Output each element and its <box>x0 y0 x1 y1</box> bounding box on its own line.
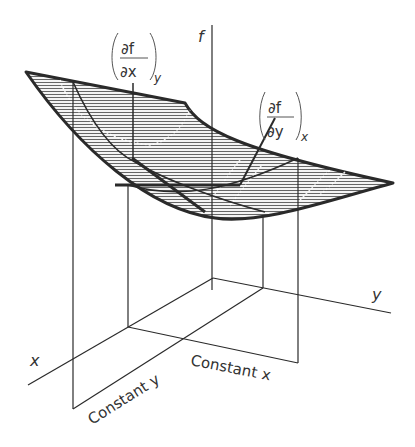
x-axis <box>28 278 213 385</box>
f-axis-label: f <box>198 27 206 46</box>
partial-x-label: ∂f ∂x y <box>112 33 162 85</box>
svg-text:x: x <box>300 130 309 144</box>
svg-text:∂y: ∂y <box>267 123 284 141</box>
constant-y-line <box>73 288 263 409</box>
constant-y-label: Constant y <box>85 370 163 428</box>
x-axis-label: x <box>29 351 40 370</box>
partial-y-label: ∂f ∂y x <box>260 92 309 144</box>
partial-derivative-diagram: f y x ∂f ∂x y ∂f ∂y x Constant y Constan… <box>0 0 415 447</box>
y-axis-label: y <box>371 285 382 304</box>
base-lines <box>28 278 391 409</box>
svg-text:∂f: ∂f <box>121 40 135 58</box>
surface <box>26 72 393 219</box>
y-axis <box>213 278 391 313</box>
svg-text:∂f: ∂f <box>268 99 282 117</box>
svg-text:y: y <box>153 71 162 85</box>
svg-text:∂x: ∂x <box>120 63 137 81</box>
constant-x-label: Constant x <box>189 351 272 384</box>
